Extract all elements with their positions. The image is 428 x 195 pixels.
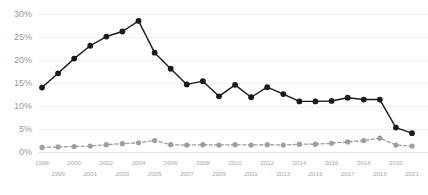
line-chart: 0%5%10%15%20%25%30% 19981999200020012002…	[0, 0, 428, 195]
data-point-marker	[184, 143, 189, 148]
data-point-marker	[409, 130, 415, 136]
data-point-marker	[136, 140, 141, 145]
data-point-marker	[264, 84, 270, 90]
data-point-marker	[136, 18, 142, 24]
x-axis-tick-label: 2014	[293, 159, 307, 166]
y-axis-tick-label: 0%	[19, 147, 32, 157]
x-axis-tick-label: 2000	[67, 159, 81, 166]
y-axis-tick-label: 30%	[14, 9, 32, 19]
data-point-marker	[345, 139, 350, 144]
data-point-marker	[249, 143, 254, 148]
series-line	[42, 138, 412, 147]
y-axis-tick-label: 20%	[14, 55, 32, 65]
data-point-marker	[120, 29, 126, 35]
data-point-marker	[104, 142, 109, 147]
data-point-marker	[361, 138, 366, 143]
data-point-marker	[345, 95, 351, 101]
data-point-marker	[377, 136, 382, 141]
series-secondary	[39, 136, 414, 150]
x-axis-tick-label: 2020	[389, 159, 403, 166]
x-axis-tick-label: 2021	[405, 170, 419, 177]
data-point-marker	[168, 66, 174, 72]
data-point-marker	[216, 143, 221, 148]
x-axis-tick-label: 2013	[276, 170, 290, 177]
y-axis-tick-label: 10%	[14, 101, 32, 111]
x-axis-tick-label: 2016	[325, 159, 339, 166]
data-point-marker	[393, 125, 399, 131]
x-axis-tick-label: 2006	[164, 159, 178, 166]
x-axis-tick-label: 1998	[35, 159, 49, 166]
data-point-marker	[329, 141, 334, 146]
data-point-marker	[200, 78, 206, 84]
data-point-marker	[184, 81, 190, 87]
y-axis-tick-label: 15%	[14, 78, 32, 88]
data-point-marker	[152, 50, 158, 56]
data-point-marker	[280, 91, 286, 97]
chart-plot-area: 0%5%10%15%20%25%30% 19981999200020012002…	[0, 0, 428, 195]
x-axis-tick-label: 1999	[51, 170, 65, 177]
data-point-marker	[216, 93, 222, 99]
x-axis-tick-label: 2005	[148, 170, 162, 177]
data-point-marker	[313, 142, 318, 147]
x-axis-tick-label: 2010	[228, 159, 242, 166]
data-point-marker	[409, 143, 414, 148]
data-point-marker	[87, 43, 93, 49]
data-point-marker	[329, 98, 335, 104]
x-axis-tick-label: 2012	[260, 159, 274, 166]
data-point-marker	[265, 142, 270, 147]
data-point-marker	[55, 144, 60, 149]
x-axis-tick-label: 2018	[357, 159, 371, 166]
x-axis-tick-label: 2008	[196, 159, 210, 166]
data-point-marker	[88, 143, 93, 148]
x-axis-tick-labels: 1998199920002001200220032004200520062007…	[35, 159, 419, 177]
data-point-marker	[313, 99, 319, 105]
data-point-marker	[377, 97, 383, 103]
data-point-marker	[296, 99, 302, 105]
data-point-marker	[39, 145, 44, 150]
y-axis-tick-labels: 0%5%10%15%20%25%30%	[14, 9, 32, 157]
x-axis-tick-label: 2011	[244, 170, 258, 177]
x-axis-tick-label: 2001	[83, 170, 97, 177]
data-point-marker	[103, 34, 109, 40]
y-axis-tick-label: 5%	[19, 124, 32, 134]
x-axis-tick-label: 2007	[180, 170, 194, 177]
data-point-marker	[168, 142, 173, 147]
data-point-marker	[281, 143, 286, 148]
y-axis-tick-label: 25%	[14, 32, 32, 42]
data-point-marker	[55, 70, 61, 76]
x-axis-tick-label: 2004	[132, 159, 146, 166]
x-axis-tick-label: 2019	[373, 170, 387, 177]
data-point-marker	[361, 97, 367, 103]
data-point-marker	[393, 143, 398, 148]
x-axis-tick-label: 2015	[309, 170, 323, 177]
data-point-marker	[297, 142, 302, 147]
data-point-marker	[232, 82, 238, 88]
data-point-marker	[248, 94, 254, 100]
data-point-marker	[232, 142, 237, 147]
x-axis-tick-label: 2002	[99, 159, 113, 166]
x-axis-tick-label: 2003	[116, 170, 130, 177]
data-point-marker	[120, 141, 125, 146]
data-point-marker	[200, 142, 205, 147]
data-point-marker	[152, 138, 157, 143]
data-point-marker	[39, 85, 45, 91]
series-primary	[39, 18, 415, 136]
x-axis-tick-label: 2009	[212, 170, 226, 177]
series-line	[42, 21, 412, 133]
x-axis-tick-label: 2017	[341, 170, 355, 177]
data-point-marker	[72, 144, 77, 149]
data-point-marker	[71, 56, 77, 62]
